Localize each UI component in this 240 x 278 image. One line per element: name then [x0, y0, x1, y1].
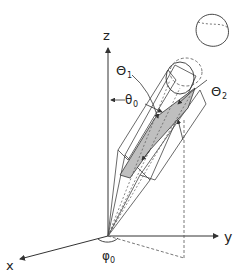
theta0-label: θ — [125, 93, 132, 107]
phi0-sub: 0 — [110, 256, 115, 265]
theta0-sub: 0 — [133, 100, 138, 109]
coordinate-diagram: z y x Θ 1 θ 0 Θ 2 φ 0 — [0, 0, 240, 278]
y-axis-label: y — [224, 229, 232, 245]
phi0-label: φ — [102, 249, 110, 263]
axes — [20, 48, 218, 259]
inset-shape — [196, 14, 228, 46]
Theta1-sub: 1 — [127, 71, 132, 80]
beam-end-dashed — [170, 58, 202, 86]
beam-end-circle — [166, 62, 194, 94]
z-axis-label: z — [103, 28, 110, 43]
x-axis — [20, 236, 108, 259]
x-axis-label: x — [6, 258, 14, 273]
Theta1-label: Θ — [116, 63, 126, 78]
Theta2-label: Θ — [211, 84, 221, 99]
Theta2-sub: 2 — [222, 92, 227, 101]
phi0-arc — [98, 238, 118, 242]
